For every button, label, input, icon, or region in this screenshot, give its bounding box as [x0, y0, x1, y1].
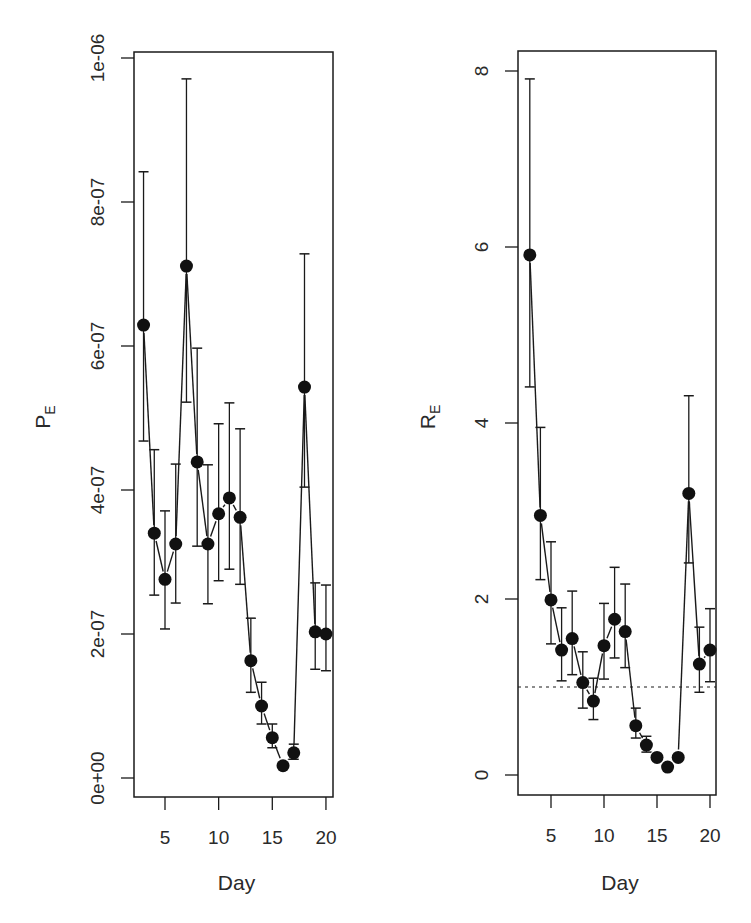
left-data-point — [298, 381, 311, 394]
left-data-point — [159, 573, 172, 586]
right-y-tick-label: 8 — [471, 66, 492, 77]
left-x-tick-label: 20 — [315, 827, 336, 848]
left-series-segment — [167, 552, 173, 572]
left-data-point — [234, 511, 247, 524]
left-y-tick-label: 0e+00 — [87, 751, 108, 804]
right-series-segment — [574, 646, 581, 674]
right-data-point — [587, 695, 600, 708]
right-data-point — [640, 739, 653, 752]
right-data-point — [566, 632, 579, 645]
left-series-segment — [156, 541, 163, 571]
right-series-segment — [530, 263, 540, 507]
left-series-segment — [233, 505, 236, 510]
right-data-point — [629, 719, 642, 732]
right-x-tick-label: 20 — [699, 825, 720, 846]
left-series-segment — [305, 395, 315, 624]
right-y-tick-label: 6 — [471, 242, 492, 253]
right-data-point — [598, 639, 611, 652]
right-x-tick-label: 10 — [593, 825, 614, 846]
left-series-segment — [223, 505, 225, 508]
left-series-segment — [275, 745, 280, 758]
right-series-segment — [607, 627, 612, 639]
right-data-point — [523, 248, 536, 261]
left-data-point — [201, 538, 214, 551]
left-y-tick-label: 6e-07 — [87, 322, 108, 371]
left-series-segment — [264, 714, 270, 731]
left-data-point — [255, 700, 268, 713]
right-series-segment — [587, 690, 590, 695]
right-series-segment — [626, 640, 635, 718]
right-chart-re: 510152002468DayRE — [416, 51, 721, 894]
left-error-bar — [224, 403, 234, 569]
right-error-bar — [610, 567, 620, 658]
right-series-segment — [595, 653, 603, 693]
right-data-point — [608, 613, 621, 626]
left-error-bar — [192, 348, 202, 546]
left-series-segment — [144, 333, 154, 525]
right-data-point — [693, 658, 706, 671]
left-y-tick-label: 2e-07 — [87, 610, 108, 659]
right-data-point — [619, 625, 632, 638]
left-error-bar — [214, 424, 224, 581]
right-y-tick-label: 4 — [471, 417, 492, 428]
right-x-tick-label: 5 — [546, 825, 557, 846]
left-chart-pe: 51015200e+002e-074e-076e-078e-071e-06Day… — [31, 34, 337, 894]
left-series-segment — [211, 521, 216, 536]
left-series-segment — [253, 668, 260, 698]
right-x-tick-label: 15 — [646, 825, 667, 846]
left-series-segment — [176, 274, 186, 536]
right-data-point — [651, 751, 664, 764]
left-data-point — [244, 654, 257, 667]
left-data-point — [180, 260, 193, 273]
figure: 51015200e+002e-074e-076e-078e-071e-06Day… — [0, 0, 751, 923]
left-data-point — [191, 455, 204, 468]
left-data-point — [309, 625, 322, 638]
left-x-axis-label: Day — [218, 871, 256, 894]
right-series-segment — [553, 608, 560, 643]
right-data-point — [576, 676, 589, 689]
left-y-tick-label: 8e-07 — [87, 178, 108, 227]
left-data-point — [319, 628, 332, 641]
right-data-point — [704, 644, 717, 657]
left-series-segment — [187, 274, 197, 454]
left-series-segment — [241, 525, 251, 652]
left-data-point — [212, 507, 225, 520]
right-series-segment — [689, 501, 699, 656]
right-x-axis-label: Day — [601, 871, 639, 894]
right-series-segment — [704, 656, 705, 657]
right-error-bar — [684, 396, 694, 563]
left-y-tick-label: 4e-07 — [87, 466, 108, 515]
right-series-segment — [640, 733, 643, 738]
left-x-tick-label: 5 — [160, 827, 171, 848]
right-data-point — [672, 751, 685, 764]
right-y-tick-label: 2 — [471, 594, 492, 605]
left-series-segment — [294, 395, 304, 745]
left-y-axis-label: PE — [31, 405, 58, 428]
left-x-tick-label: 10 — [208, 827, 229, 848]
right-series-segment — [541, 523, 550, 592]
right-y-axis-label: RE — [416, 405, 443, 430]
right-data-point — [545, 593, 558, 606]
left-series-segment — [198, 470, 207, 536]
left-data-point — [277, 759, 290, 772]
left-data-point — [287, 746, 300, 759]
left-data-point — [169, 538, 182, 551]
right-data-point — [661, 761, 674, 774]
left-x-tick-label: 15 — [262, 827, 283, 848]
right-series-segment — [679, 501, 689, 749]
right-y-tick-label: 0 — [471, 770, 492, 781]
left-data-point — [266, 731, 279, 744]
left-data-point — [223, 491, 236, 504]
right-data-point — [534, 509, 547, 522]
right-plot-frame — [518, 51, 716, 795]
left-y-tick-label: 1e-06 — [87, 34, 108, 83]
left-data-point — [148, 527, 161, 540]
right-error-bar — [546, 542, 556, 644]
left-series-segment — [288, 759, 289, 760]
right-data-point — [682, 487, 695, 500]
left-data-point — [137, 319, 150, 332]
right-data-point — [555, 644, 568, 657]
